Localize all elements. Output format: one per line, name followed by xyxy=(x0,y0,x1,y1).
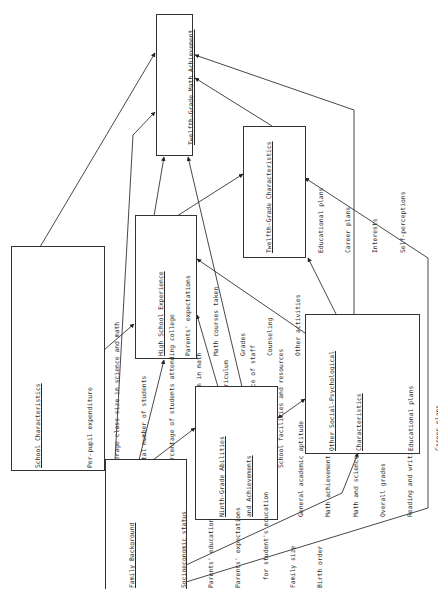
node-title: Family Background xyxy=(128,492,137,588)
node-item: Family size xyxy=(289,492,298,588)
node-title: School Characteristics xyxy=(34,314,43,468)
node-title: Twelfth-Grade Math Achievement xyxy=(187,30,196,145)
node-item: for student's education xyxy=(262,492,271,588)
node-item: Educational plans xyxy=(407,351,416,451)
node-title: Other Social-Psychological xyxy=(328,351,337,451)
node-item: Interests xyxy=(371,141,380,253)
node-item: Percentage of students attending college xyxy=(168,314,177,468)
node-family: Family Background Socioeconomic status P… xyxy=(105,459,187,589)
node-item: Average class size in science and math xyxy=(113,314,122,468)
node-title-line2: Characteristics xyxy=(355,351,364,451)
node-twelfth-grade: Twelfth-Grade Characteristics Educationa… xyxy=(243,126,306,258)
node-item: Socioeconomic status xyxy=(180,492,189,588)
edge-highschool-to-math xyxy=(154,157,164,216)
node-math-achievement: Twelfth-Grade Math Achievement xyxy=(156,14,193,156)
node-item: Self-perceptions xyxy=(399,141,408,253)
node-other-social: Other Social-Psychological Characteristi… xyxy=(305,314,420,454)
node-item: Parents' expectations xyxy=(234,492,243,588)
node-title: Twelfth-Grade Characteristics xyxy=(265,141,274,253)
node-school: School Characteristics Per-pupil expendi… xyxy=(11,246,105,471)
node-item: Career plans xyxy=(434,351,438,451)
node-item: Educational plans xyxy=(317,141,326,253)
node-item: Total number of students xyxy=(140,314,149,468)
node-item: Birth order xyxy=(316,492,325,588)
node-item: Per-pupil expenditure xyxy=(86,314,95,468)
edge-highschool-to-twelfth xyxy=(177,174,243,216)
node-item: Parents' education xyxy=(207,492,216,588)
node-item: Career plans xyxy=(344,141,353,253)
